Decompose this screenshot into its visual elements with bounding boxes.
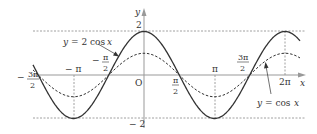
label-cos-y: y (256, 98, 263, 108)
origin-label: O (135, 78, 142, 88)
y-axis-label: y (134, 7, 141, 17)
x-tick-neg-pi: − π (65, 64, 81, 74)
label-2cos-y: y (62, 37, 69, 47)
x-axis-arrow-icon (298, 73, 306, 78)
label-cos-eq: = cos (265, 98, 291, 108)
x-tick-neg-3pi-2: − 3π 2 (17, 70, 39, 90)
arrowhead-cos-icon (264, 62, 269, 69)
cosine-graph: y x O 2 − 2 − π π 2π − 3π 2 − π 2 π 2 3π… (0, 0, 317, 134)
x-tick-pi: π (212, 64, 218, 74)
fraction-num: 3π (28, 70, 38, 79)
y-tick-2: 2 (136, 20, 142, 30)
fraction-den: 2 (30, 81, 35, 90)
arrowhead-2cos-icon (113, 52, 119, 57)
fraction-num: 3π (238, 53, 248, 62)
label-cosx: y = cos x (256, 98, 299, 108)
label-2cos-eq: = 2 cos (71, 37, 105, 47)
minus-sign: − (17, 72, 25, 82)
label-2cos-x: x (107, 37, 112, 47)
fraction-num: π (173, 76, 178, 85)
fraction-den: 2 (240, 64, 245, 73)
x-tick-3pi-2: 3π 2 (237, 53, 249, 73)
x-tick-2pi: 2π (279, 77, 291, 87)
y-tick-neg2: − 2 (129, 119, 145, 129)
fraction-num: π (103, 53, 108, 62)
x-tick-pi-2: π 2 (172, 76, 179, 96)
minus-sign: − (92, 55, 100, 65)
annotation-arrow-cos (266, 66, 271, 94)
label-cos-x: x (294, 98, 299, 108)
fraction-den: 2 (103, 64, 108, 73)
fraction-den: 2 (173, 87, 178, 96)
y-axis-arrow-icon (142, 8, 147, 16)
x-tick-neg-pi-2: − π 2 (92, 53, 109, 73)
label-2cosx: y = 2 cos x (62, 37, 112, 47)
x-axis-label: x (300, 78, 305, 88)
